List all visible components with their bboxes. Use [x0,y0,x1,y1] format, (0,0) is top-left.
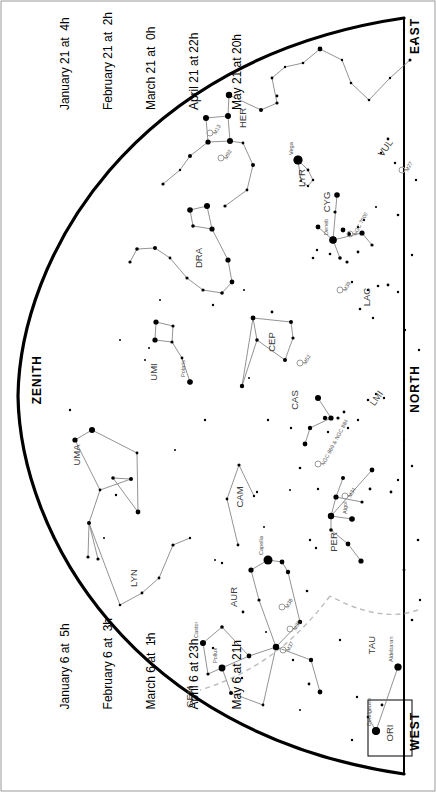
star-dot [387,284,390,287]
star-dot [220,291,224,295]
star-dot [370,468,375,473]
star-dot [170,340,173,343]
star-dot [411,465,413,467]
date-block-top: January 21 at 4h February 21 at 2h March… [30,12,273,110]
star-dot [351,739,353,741]
star-dot [338,256,342,260]
star-dot [291,336,294,339]
star-dot [227,138,233,144]
constellation-label-umi: UMI [148,363,159,380]
constellation-label-her: HER [237,108,248,128]
star-dot [237,544,240,547]
star-label-polaris: Polaris [180,360,186,377]
date-line: February 21 at 2h [101,12,116,110]
star-dot [87,521,91,525]
star-dot [389,77,391,79]
star-dot [347,427,349,429]
cardinal-label-west: WEST [408,712,422,751]
star-dot [181,357,184,360]
named-star-dot [330,237,337,244]
star-dot [411,254,413,256]
star-dot [302,62,305,65]
star-dot [403,569,406,572]
star-dot [397,214,400,217]
star-dot [356,696,358,698]
star-dot [185,276,188,279]
star-dot [203,115,209,121]
date-line: May 21 at 20h [230,12,245,110]
star-dot [375,206,377,208]
star-dot [225,257,230,262]
star-dot [135,247,139,251]
star-dot [201,288,204,291]
star-dot [209,226,214,231]
star-label-betelgeuse: Betelgeuse [366,698,372,726]
star-dot [242,611,245,614]
star-dot [204,203,210,209]
named-star-dot [372,727,380,735]
star-dot [370,243,373,246]
star-dot [368,99,371,102]
star-dot [179,169,181,171]
star-dot [86,555,89,558]
star-label-vega: Vega [288,141,294,155]
star-dot [404,329,406,331]
star-dot [333,210,336,213]
star-dot [292,659,294,661]
star-dot [187,207,193,213]
star-dot [329,253,332,256]
constellation-label-lac: LAC [361,288,372,307]
star-dot [243,289,245,291]
star-dot [171,543,174,546]
date-line: February 6 at 3h [101,618,116,709]
star-dot [315,547,317,549]
star-dot [255,338,259,342]
cardinal-label-zenith: ZENITH [30,355,44,404]
star-dot [341,476,345,480]
star-dot [171,324,174,327]
star-dot [377,285,380,288]
star-dot [418,349,420,351]
star-dot [72,437,77,442]
star-dot [223,204,226,207]
star-dot [89,427,95,433]
star-dot [246,189,249,192]
star-dot [308,683,311,686]
star-dot [289,320,293,324]
star-dot [248,567,253,572]
star-dot [275,101,278,104]
star-dot [312,257,315,260]
star-dot [289,489,291,491]
star-dot [174,449,176,451]
star-dot [318,690,323,695]
star-dot [411,619,414,622]
star-dot [351,281,353,283]
star-dot [299,467,302,470]
star-dot [225,113,231,119]
star-dot [317,488,319,490]
named-star-dot [293,155,302,164]
star-dot [205,139,210,144]
star-dot [119,339,121,341]
star-dot [214,559,216,561]
star-dot [128,260,131,263]
star-dot [115,494,117,496]
star-dot [360,500,363,503]
star-dot [286,570,290,574]
star-dot [329,528,333,532]
date-line: March 6 at 1h [144,618,159,709]
star-dot [357,251,360,254]
star-dot [257,598,260,601]
star-dot [315,395,321,401]
star-dot [306,590,309,593]
star-dot [158,577,161,580]
star-dot [343,411,346,414]
star-dot [169,257,172,260]
named-star-dot [264,556,273,565]
star-dot [307,185,309,187]
star-dot [290,427,292,429]
date-line: May 6 at 21h [230,618,245,709]
star-dot [226,498,229,501]
star-dot [419,599,421,601]
star-dot [390,491,393,494]
